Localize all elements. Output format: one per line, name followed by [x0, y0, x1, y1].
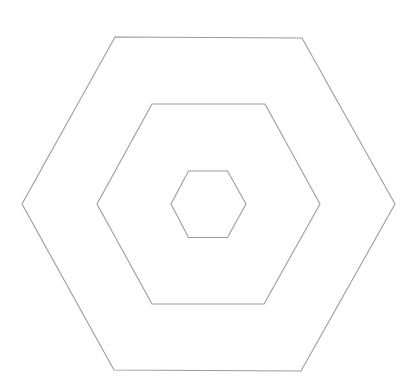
concentric-hexagons-diagram — [0, 0, 417, 388]
diagram-canvas — [0, 0, 417, 388]
outer-hexagon — [22, 37, 395, 371]
middle-hexagon — [97, 104, 320, 304]
inner-hexagon — [171, 171, 246, 238]
